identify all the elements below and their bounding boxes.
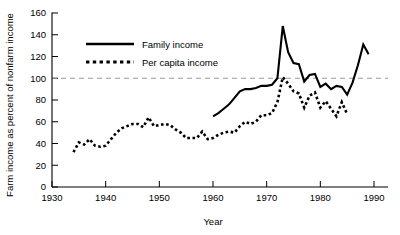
x-tick-label: 1930: [41, 192, 62, 203]
x-tick-label: 1980: [310, 192, 331, 203]
y-tick-label: 80: [35, 94, 46, 105]
y-tick-label: 140: [30, 29, 46, 40]
x-axis-title: Year: [203, 216, 222, 227]
x-tick-label: 1970: [256, 192, 277, 203]
y-tick-label: 120: [30, 51, 46, 62]
x-tick-label: 1940: [95, 192, 116, 203]
y-tick-label: 60: [35, 116, 46, 127]
chart-legend: Family income Per capita income: [86, 39, 218, 68]
x-axis-ticks: 1930194019501960197019801990: [41, 181, 384, 203]
legend-label-family-income: Family income: [142, 39, 203, 50]
series-family-income: [213, 26, 369, 116]
y-tick-label: 160: [30, 7, 46, 18]
y-tick-label: 40: [35, 138, 46, 149]
chart-container: Farm income as percent of nonfarm income…: [0, 0, 400, 235]
y-tick-label: 100: [30, 73, 46, 84]
y-tick-label: 20: [35, 160, 46, 171]
legend-label-per-capita-income: Per capita income: [142, 57, 218, 68]
x-tick-label: 1990: [363, 192, 384, 203]
series-per-capita-income: [73, 77, 347, 152]
x-tick-label: 1960: [202, 192, 223, 203]
y-tick-label: 0: [41, 181, 46, 192]
farm-income-line-chart: Farm income as percent of nonfarm income…: [0, 0, 400, 235]
x-tick-label: 1950: [149, 192, 170, 203]
y-axis-title: Farm income as percent of nonfarm income: [4, 13, 15, 197]
y-axis-ticks: 020406080100120140160: [30, 7, 58, 192]
